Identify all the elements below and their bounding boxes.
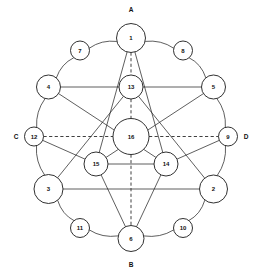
node-8[interactable]: 8: [174, 41, 193, 60]
ring-edge-4-7: [56, 58, 73, 78]
edge-6-15: [101, 175, 125, 227]
axis-label-a: A: [129, 6, 134, 13]
axis-label-b: B: [129, 261, 134, 268]
ring-edge-3-12: [36, 146, 44, 175]
node-label-16: 16: [128, 134, 135, 140]
edge-6-14: [137, 175, 161, 227]
node-11[interactable]: 11: [71, 219, 90, 238]
node-13[interactable]: 13: [119, 75, 143, 99]
edge-12-15: [43, 140, 85, 159]
ring-edge-9-2: [217, 146, 225, 176]
node-10[interactable]: 10: [174, 219, 193, 238]
ring-edge-6-11: [89, 230, 118, 236]
ring-edge-5-9: [217, 99, 226, 128]
node-12[interactable]: 12: [25, 127, 44, 146]
node-label-14: 14: [163, 161, 170, 167]
node-3[interactable]: 3: [34, 175, 63, 204]
node-2[interactable]: 2: [200, 175, 228, 203]
node-label-10: 10: [180, 225, 187, 231]
ring-edge-1-8: [145, 41, 174, 48]
node-label-13: 13: [128, 84, 135, 90]
node-16[interactable]: 16: [113, 119, 149, 155]
node-label-11: 11: [77, 225, 84, 231]
node-label-12: 12: [31, 134, 38, 140]
node-6[interactable]: 6: [118, 226, 144, 252]
node-15[interactable]: 15: [84, 152, 108, 176]
node-5[interactable]: 5: [202, 75, 226, 99]
ring-edge-8-5: [189, 58, 206, 78]
ring-edge-2-10: [189, 200, 205, 220]
graph-figure: 18592106113124713151416 ABCD: [0, 0, 262, 273]
node-7[interactable]: 7: [71, 41, 90, 60]
ring-edge-11-3: [58, 200, 74, 220]
ring-edge-10-6: [144, 230, 174, 237]
node-14[interactable]: 14: [154, 152, 178, 176]
ring-edge-12-4: [37, 99, 46, 128]
axis-label-d: D: [244, 133, 249, 140]
ring-edge-7-1: [89, 41, 117, 48]
edge-9-14: [177, 140, 219, 159]
axis-label-c: C: [14, 133, 19, 140]
node-1[interactable]: 1: [117, 24, 146, 53]
node-label-15: 15: [93, 161, 100, 167]
node-4[interactable]: 4: [37, 75, 61, 99]
node-9[interactable]: 9: [219, 127, 238, 146]
graph-canvas: 18592106113124713151416 ABCD: [0, 0, 262, 273]
